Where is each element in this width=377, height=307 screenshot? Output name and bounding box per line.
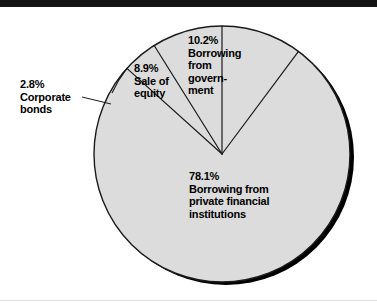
chart-canvas: 10.2% Borrowing from govern- ment 8.9% S… [0,0,377,307]
slice-label-corporate-bonds: 2.8% Corporate bonds [20,78,71,116]
slice-label-sale-of-equity: 8.9% Sale of equity [134,62,169,100]
slice-label-government: 10.2% Borrowing from govern- ment [188,34,241,97]
bottom-divider-rule [0,300,377,301]
slice-label-private-financial-institutions: 78.1% Borrowing from private financial i… [189,170,269,220]
